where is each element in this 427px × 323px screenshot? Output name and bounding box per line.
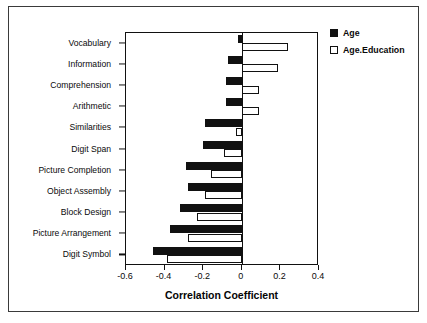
x-axis-tick	[279, 265, 280, 270]
bar-age-education	[167, 255, 242, 263]
bar-age-education	[242, 86, 259, 94]
x-axis-tick-labels: -0.6-0.4-0.200.20.4	[95, 271, 355, 285]
y-axis-label: Similarities	[69, 122, 111, 132]
legend: AgeAge.Education	[330, 26, 422, 60]
bar-age-education	[242, 64, 279, 72]
legend-item: Age	[330, 26, 422, 40]
y-axis-label: Picture Completion	[38, 165, 111, 175]
bar-age-education	[205, 191, 242, 199]
x-axis-tick-label: -0.4	[156, 271, 172, 281]
bar-age-education	[188, 234, 242, 242]
x-axis-tick-label: -0.6	[117, 271, 133, 281]
x-axis-tick	[125, 265, 126, 270]
x-axis-tick-label: 0.4	[312, 271, 325, 281]
bar-age	[203, 141, 242, 149]
legend-label: Age	[343, 28, 360, 38]
plot-area	[125, 32, 318, 265]
bar-age-education	[197, 213, 241, 221]
y-axis-label: Vocabulary	[68, 38, 111, 48]
legend-item: Age.Education	[330, 43, 422, 57]
bar-age	[153, 247, 242, 255]
legend-swatch-hollow-square-icon	[330, 46, 338, 54]
bar-age-education	[242, 107, 259, 115]
bar-age	[188, 183, 242, 191]
y-axis: VocabularyInformationComprehensionArithm…	[0, 32, 125, 265]
x-axis-tick-label: -0.2	[194, 271, 210, 281]
x-axis-tick	[318, 265, 319, 270]
bar-age	[226, 77, 241, 85]
y-axis-label: Digit Span	[71, 144, 111, 154]
x-axis-tick	[164, 265, 165, 270]
bar-age-education	[211, 170, 242, 178]
bar-age	[170, 225, 241, 233]
bar-age-education	[242, 43, 288, 51]
y-axis-label: Arithmetic	[73, 101, 111, 111]
bar-age	[205, 119, 242, 127]
x-axis-tick	[202, 265, 203, 270]
x-axis-title: Correlation Coefficient	[125, 289, 318, 301]
bar-age	[238, 35, 242, 43]
bar-age	[228, 56, 242, 64]
x-axis-tick-label: 0.2	[273, 271, 286, 281]
bar-age-education	[224, 149, 241, 157]
bar-age	[186, 162, 242, 170]
x-axis-tick	[241, 265, 242, 270]
figure-container: VocabularyInformationComprehensionArithm…	[0, 0, 427, 323]
bar-age-education	[236, 128, 242, 136]
y-axis-label: Comprehension	[50, 80, 111, 90]
legend-label: Age.Education	[343, 45, 405, 55]
y-axis-label: Information	[68, 59, 111, 69]
legend-swatch-filled-square-icon	[330, 29, 338, 37]
bar-age	[226, 98, 241, 106]
y-axis-label: Picture Arrangement	[33, 228, 111, 238]
y-axis-label: Object Assembly	[47, 186, 111, 196]
x-axis-tick-label: 0	[238, 271, 243, 281]
y-axis-label: Digit Symbol	[63, 249, 111, 259]
bar-age	[180, 204, 242, 212]
y-axis-label: Block Design	[61, 207, 111, 217]
